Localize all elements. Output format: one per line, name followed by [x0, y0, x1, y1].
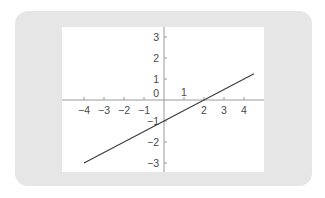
y-tick-label: −1 [147, 115, 159, 127]
y-tick-label: 3 [153, 31, 159, 43]
y-tick-label: −2 [147, 136, 159, 148]
y-tick-label: −3 [147, 157, 159, 169]
x-tick-label: 1 [181, 86, 187, 98]
y-tick-label: 2 [153, 52, 159, 64]
data-line [84, 74, 254, 163]
x-tick-label: −3 [98, 104, 110, 116]
line-chart: −4−3−2−11234−3−2−11230 [0, 0, 325, 198]
y-tick-label: 1 [153, 73, 159, 85]
x-tick-label: 3 [221, 104, 227, 116]
origin-label: 0 [153, 87, 159, 99]
x-tick-label: −4 [78, 104, 90, 116]
x-tick-label: −2 [118, 104, 130, 116]
x-tick-label: 2 [201, 104, 207, 116]
x-tick-label: 4 [241, 104, 247, 116]
